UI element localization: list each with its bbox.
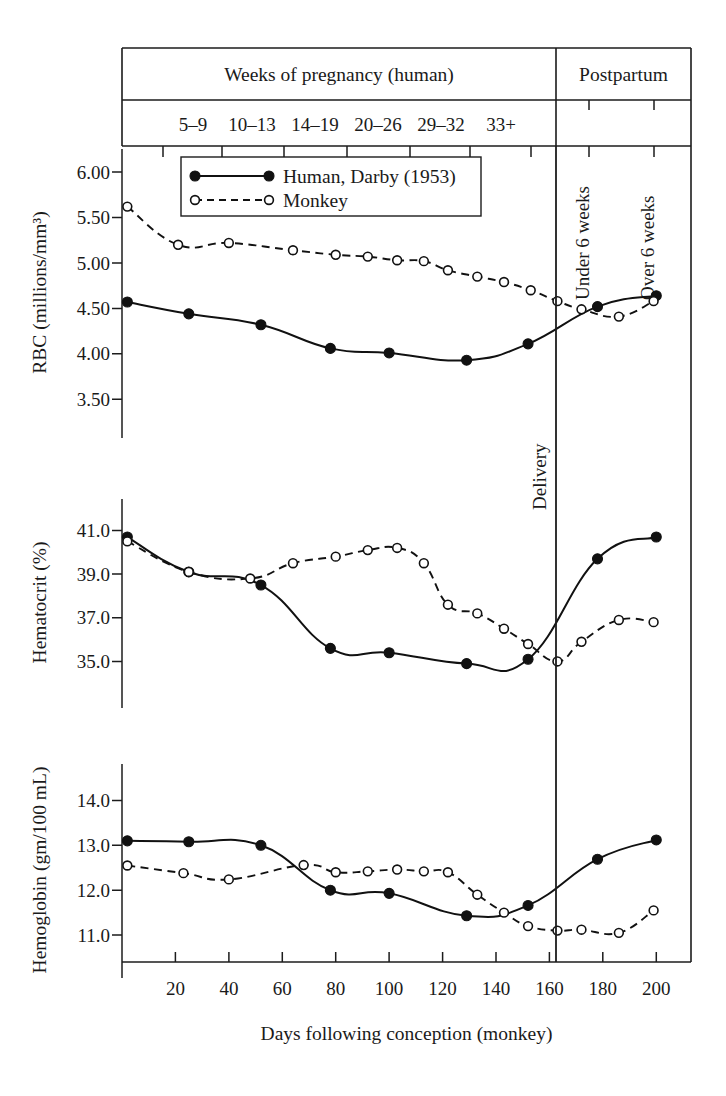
data-point-monkey-2-4: [331, 868, 340, 877]
data-point-monkey-0-2: [224, 239, 233, 248]
data-point-monkey-2-7: [419, 867, 428, 876]
x-tick-label-4: 100: [375, 978, 404, 999]
data-point-monkey-2-0: [123, 861, 132, 870]
y-ticks-1: [112, 531, 122, 662]
data-point-human-2-7: [593, 854, 603, 864]
x-axis: 20406080100120140160180200Days following…: [122, 952, 691, 1045]
data-point-human-0-0: [122, 297, 132, 307]
data-point-human-0-1: [184, 309, 194, 319]
x-tick-label-6: 140: [482, 978, 511, 999]
data-point-monkey-0-7: [419, 257, 428, 266]
y-tick-label-1-1: 37.0: [77, 607, 110, 628]
data-point-monkey-0-11: [526, 286, 535, 295]
panel-hemoglobin: 11.012.013.014.0Hemoglobin (gm/100 mL): [29, 764, 661, 978]
data-point-monkey-2-14: [614, 928, 623, 937]
series-line-monkey-1: [127, 541, 653, 661]
x-tick-label-5: 120: [428, 978, 457, 999]
data-point-human-0-7: [593, 302, 603, 312]
y-axis-title-0: RBC (millions/mm³): [29, 211, 51, 373]
data-point-human-1-2: [256, 580, 266, 590]
series-line-monkey-2: [127, 865, 653, 934]
data-point-monkey-2-5: [363, 867, 372, 876]
y-axis-title-2: Hemoglobin (gm/100 mL): [29, 767, 51, 974]
y-ticks-0: [112, 172, 122, 399]
data-point-human-1-8: [651, 532, 661, 542]
data-point-monkey-0-4: [331, 250, 340, 259]
data-point-human-0-3: [325, 343, 335, 353]
data-point-monkey-2-3: [299, 861, 308, 870]
data-point-monkey-1-15: [649, 618, 658, 627]
data-point-monkey-2-10: [500, 908, 509, 917]
data-point-monkey-2-6: [393, 865, 402, 874]
y-tick-label-0-1: 4.00: [77, 343, 110, 364]
y-tick-label-1-2: 39.0: [77, 564, 110, 585]
data-point-human-1-4: [384, 648, 394, 658]
legend-marker-start-1: [191, 196, 200, 205]
data-point-human-0-6: [523, 339, 533, 349]
postpartum-band-ticks: [589, 146, 654, 157]
data-point-monkey-1-10: [500, 624, 509, 633]
y-tick-label-2-0: 11.0: [77, 925, 110, 946]
postpartum-band-label-1: Over 6 weeks: [637, 196, 658, 300]
data-point-monkey-2-12: [553, 926, 562, 935]
header-horizontal-rules: [122, 48, 691, 146]
data-point-monkey-1-2: [246, 574, 255, 583]
x-ticks: [175, 952, 656, 962]
data-point-monkey-2-9: [473, 890, 482, 899]
data-point-monkey-1-5: [363, 546, 372, 555]
data-point-monkey-0-6: [393, 256, 402, 265]
data-point-monkey-1-3: [289, 559, 298, 568]
legend-marker-start-0: [190, 171, 200, 181]
y-tick-label-0-2: 4.50: [77, 298, 110, 319]
data-point-monkey-2-13: [577, 925, 586, 934]
y-axis-title-1: Hematocrit (%): [29, 542, 51, 664]
y-tick-label-0-3: 5.00: [77, 253, 110, 274]
series-line-human-2: [127, 840, 656, 917]
data-point-human-2-4: [384, 888, 394, 898]
data-point-monkey-1-9: [473, 609, 482, 618]
data-point-monkey-0-1: [174, 240, 183, 249]
data-point-monkey-2-8: [444, 868, 453, 877]
x-axis-title: Days following conception (monkey): [261, 1023, 553, 1045]
postpartum-header: Postpartum: [579, 64, 668, 85]
figure-container: Weeks of pregnancy (human)Postpartum5–91…: [0, 0, 726, 1096]
data-point-monkey-1-4: [331, 552, 340, 561]
data-point-human-1-7: [593, 554, 603, 564]
week-band-label-1: 10–13: [228, 114, 276, 135]
week-band-ticks: [163, 146, 531, 157]
y-tick-label-2-3: 14.0: [77, 790, 110, 811]
data-point-human-1-6: [523, 654, 533, 664]
data-point-monkey-0-8: [444, 266, 453, 275]
data-point-human-0-2: [256, 320, 266, 330]
data-point-human-1-5: [462, 659, 472, 669]
data-point-monkey-1-0: [123, 537, 132, 546]
data-point-human-2-8: [651, 835, 661, 845]
delivery-label: Delivery: [529, 443, 550, 510]
legend-label-0: Human, Darby (1953): [283, 166, 456, 188]
y-tick-label-1-0: 35.0: [77, 651, 110, 672]
postpartum-band-label-0: Under 6 weeks: [572, 186, 593, 300]
header-vertical-rules: [122, 48, 691, 146]
chart-legend: Human, Darby (1953)Monkey: [181, 157, 481, 216]
data-point-monkey-1-14: [614, 616, 623, 625]
data-point-monkey-0-15: [649, 297, 658, 306]
y-tick-label-2-2: 13.0: [77, 835, 110, 856]
data-point-human-1-3: [325, 643, 335, 653]
data-point-monkey-1-1: [184, 568, 193, 577]
data-point-human-2-3: [325, 885, 335, 895]
data-point-human-2-2: [256, 840, 266, 850]
data-point-monkey-2-15: [649, 906, 658, 915]
x-tick-label-7: 160: [535, 978, 564, 999]
data-point-monkey-2-11: [524, 922, 533, 931]
postpartum-header-ticks: [589, 100, 654, 110]
x-tick-label-8: 180: [589, 978, 618, 999]
data-point-monkey-2-2: [224, 875, 233, 884]
multi-panel-chart: Weeks of pregnancy (human)Postpartum5–91…: [0, 0, 726, 1096]
week-band-label-2: 14–19: [291, 114, 339, 135]
week-band-label-0: 5–9: [179, 114, 208, 135]
y-tick-label-1-3: 41.0: [77, 520, 110, 541]
x-tick-label-2: 60: [273, 978, 292, 999]
y-tick-label-0-0: 3.50: [77, 389, 110, 410]
y-tick-label-2-1: 12.0: [77, 880, 110, 901]
data-point-monkey-1-11: [524, 640, 533, 649]
